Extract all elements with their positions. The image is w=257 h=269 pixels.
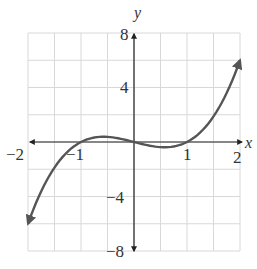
x-tick-label-1: 1 <box>183 145 192 164</box>
y-tick-label-neg4: −4 <box>106 188 125 207</box>
x-tick-label-neg1: −1 <box>66 145 84 164</box>
x-tick-label-2: 2 <box>233 148 242 167</box>
y-tick-label-4: 4 <box>120 78 129 97</box>
x-axis-label: x <box>244 134 252 151</box>
x-tick-label-neg2: −2 <box>6 145 24 164</box>
y-axis-label: y <box>132 4 142 22</box>
cubic-function-graph: x y −2 −1 1 2 8 4 −4 −8 <box>0 0 257 269</box>
y-tick-label-8: 8 <box>120 25 129 44</box>
y-tick-label-neg8: −8 <box>106 242 124 261</box>
